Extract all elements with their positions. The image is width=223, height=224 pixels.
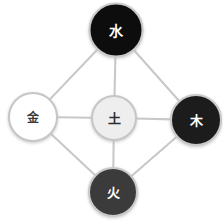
edge-metal-fire [50,133,96,177]
node-wood[interactable]: 木 [171,95,221,145]
node-earth[interactable]: 土 [92,96,136,140]
edge-water-wood [133,49,180,102]
node-circle-fire[interactable] [89,168,137,216]
node-circle-water[interactable] [90,4,143,57]
nodes-layer: 水金土木火 [9,4,221,217]
edge-wood-fire [130,136,177,177]
wuxing-diagram-canvas: 水金土木火 [0,0,223,224]
node-circle-wood[interactable] [171,95,221,145]
node-metal[interactable]: 金 [9,93,57,141]
node-circle-earth[interactable] [92,96,136,140]
wuxing-diagram: 水金土木火 [0,0,223,224]
node-water[interactable]: 水 [90,4,143,57]
edge-water-metal [49,48,99,100]
edge-earth-wood [135,119,172,120]
edge-earth-water [114,55,115,97]
node-circle-metal[interactable] [9,93,57,141]
node-fire[interactable]: 火 [89,168,137,216]
